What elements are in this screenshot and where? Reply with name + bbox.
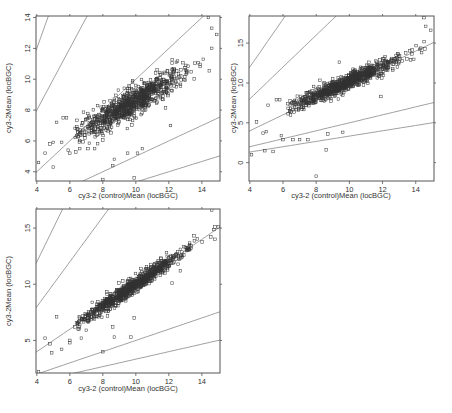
y-axis-label: cy3-2Mean (locBGC) xyxy=(4,62,13,133)
reference-line-3x xyxy=(249,0,434,68)
reference-line-0.33x xyxy=(249,123,434,153)
x-tick-label: 14 xyxy=(198,185,206,194)
x-tick-label: 8 xyxy=(101,377,105,386)
x-tick-label: 10 xyxy=(132,377,140,386)
y-tick-label: 0 xyxy=(236,161,245,165)
x-tick-label: 6 xyxy=(68,377,72,386)
plot-area xyxy=(249,0,434,178)
x-tick-label: 14 xyxy=(198,377,206,386)
x-axis-label: cy3-2 (control)Mean (locBGC) xyxy=(78,384,178,393)
x-tick-label: 4 xyxy=(248,185,252,194)
y-tick-label: 10 xyxy=(23,280,32,288)
y-tick-label: 4 xyxy=(23,170,32,174)
x-tick-label: 14 xyxy=(412,185,420,194)
reference-line-3x xyxy=(36,0,220,51)
scatter-points xyxy=(37,209,219,373)
x-tick-label: 12 xyxy=(378,185,386,194)
x-tick-label: 6 xyxy=(68,185,72,194)
scatter-points xyxy=(37,16,218,181)
y-tick-label: 5 xyxy=(236,121,245,125)
y-tick-label: 10 xyxy=(23,75,32,83)
scatter-points xyxy=(250,16,432,177)
figure: cy3-2 (control)Mean (locBGC) cy3-2Mean (… xyxy=(0,0,452,413)
x-axis-label: cy3-2 (control)Mean (locBGC) xyxy=(291,191,391,200)
y-tick-label: 6 xyxy=(23,139,32,143)
x-tick-label: 12 xyxy=(165,377,173,386)
x-tick-label: 8 xyxy=(101,185,105,194)
x-tick-label: 4 xyxy=(35,377,39,386)
y-tick-label: 15 xyxy=(23,224,32,232)
x-tick-label: 12 xyxy=(165,185,173,194)
reference-line-0.5x xyxy=(249,103,434,147)
y-axis-label: cy3-2Mean (locBGC) xyxy=(4,255,13,326)
y-tick-label: 15 xyxy=(236,39,245,47)
y-tick-label: 10 xyxy=(236,79,245,87)
y-tick-label: 5 xyxy=(23,338,32,342)
x-tick-label: 4 xyxy=(35,185,39,194)
x-tick-label: 8 xyxy=(314,185,318,194)
reference-line-0.5x xyxy=(36,312,220,375)
y-tick-label: 14 xyxy=(23,13,32,21)
reference-line-0.33x xyxy=(36,340,220,382)
scatter-plot-2: cy3-2 (control)Mean (locBGC) cy3-2Mean (… xyxy=(229,0,436,200)
figure-canvas: cy3-2 (control)Mean (locBGC) cy3-2Mean (… xyxy=(0,0,452,413)
x-tick-label: 6 xyxy=(281,185,285,194)
reference-line-3x xyxy=(36,0,220,263)
x-axis-label: cy3-2 (control)Mean (locBGC) xyxy=(78,191,178,200)
scatter-plot-1: cy3-2 (control)Mean (locBGC) cy3-2Mean (… xyxy=(4,0,222,213)
reference-line-0.33x xyxy=(36,156,220,213)
y-tick-label: 8 xyxy=(23,108,32,112)
x-tick-label: 10 xyxy=(345,185,353,194)
y-tick-label: 12 xyxy=(23,44,32,52)
x-tick-label: 10 xyxy=(132,185,140,194)
